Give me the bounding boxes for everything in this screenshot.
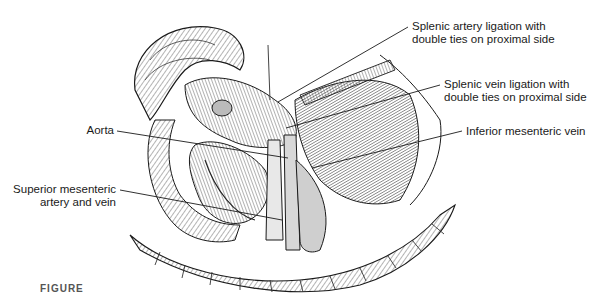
label-line-2: double ties on proximal side bbox=[444, 91, 587, 104]
label-splenic-artery: Splenic artery ligation with double ties… bbox=[412, 20, 555, 46]
label-line-1: Superior mesenteric bbox=[10, 183, 116, 196]
retractor bbox=[268, 45, 270, 100]
label-aorta: Aorta bbox=[72, 124, 114, 137]
figure-caption-partial: FIGURE bbox=[40, 283, 84, 294]
right-viscera bbox=[295, 55, 441, 205]
label-line-2: artery and vein bbox=[10, 196, 116, 209]
label-line-2: double ties on proximal side bbox=[412, 33, 555, 46]
label-line-1: Aorta bbox=[72, 124, 114, 137]
label-line-1: Inferior mesenteric vein bbox=[466, 125, 586, 138]
label-sma-smv: Superior mesenteric artery and vein bbox=[10, 183, 116, 209]
label-splenic-vein: Splenic vein ligation with double ties o… bbox=[444, 78, 587, 104]
label-line-1: Splenic artery ligation with bbox=[412, 20, 555, 33]
label-line-1: Splenic vein ligation with bbox=[444, 78, 587, 91]
mesentery bbox=[189, 142, 268, 224]
label-inferior-mesenteric-vein: Inferior mesenteric vein bbox=[466, 125, 586, 138]
pancreas bbox=[185, 78, 296, 148]
